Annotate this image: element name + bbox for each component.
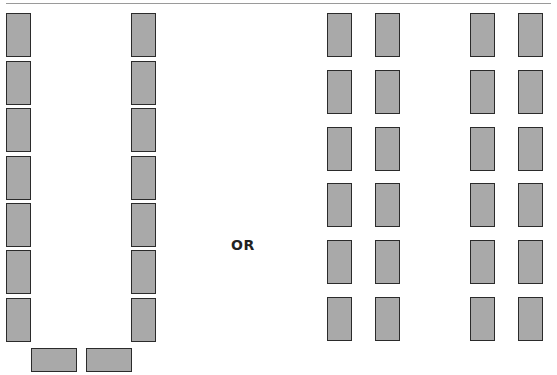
desk: [375, 240, 400, 284]
desk: [86, 348, 132, 372]
desk: [518, 70, 543, 114]
desk: [131, 108, 156, 152]
desk: [6, 108, 31, 152]
desk: [327, 13, 352, 57]
desk: [327, 70, 352, 114]
desk: [375, 13, 400, 57]
desk: [6, 13, 31, 57]
desk: [375, 297, 400, 341]
desk: [131, 250, 156, 294]
desk: [131, 156, 156, 200]
desk: [518, 297, 543, 341]
desk: [6, 203, 31, 247]
desk: [131, 298, 156, 342]
top-rule: [6, 3, 551, 4]
desk: [31, 348, 77, 372]
desk: [327, 240, 352, 284]
desk: [470, 13, 495, 57]
desk: [518, 13, 543, 57]
desk: [470, 70, 495, 114]
desk: [470, 297, 495, 341]
desk: [375, 70, 400, 114]
desk: [470, 183, 495, 227]
desk: [327, 127, 352, 171]
desk: [131, 13, 156, 57]
desk: [518, 183, 543, 227]
desk: [375, 127, 400, 171]
desk: [131, 61, 156, 105]
desk: [6, 61, 31, 105]
desk: [470, 127, 495, 171]
desk: [518, 240, 543, 284]
desk: [518, 127, 543, 171]
desk: [375, 183, 400, 227]
or-label: OR: [231, 237, 255, 253]
desk: [327, 183, 352, 227]
desk: [131, 203, 156, 247]
desk: [6, 250, 31, 294]
desk: [6, 298, 31, 342]
desk: [6, 156, 31, 200]
desk: [327, 297, 352, 341]
desk: [470, 240, 495, 284]
